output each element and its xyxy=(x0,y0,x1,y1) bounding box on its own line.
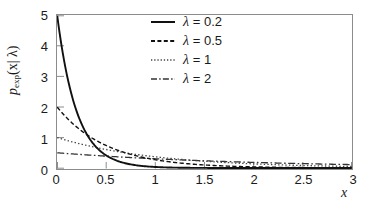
legend-label-lambda-0-5: λ = 0.5 xyxy=(183,33,222,49)
legend-label-lambda-0-2: λ = 0.2 xyxy=(183,14,222,30)
legend-label-lambda-1: λ = 1 xyxy=(183,52,211,68)
y-axis-label-base: p xyxy=(5,88,20,95)
x-tick-label-3: 3 xyxy=(333,172,369,187)
x-tick-label-0-5: 0.5 xyxy=(86,172,126,187)
y-axis-label-container: pexp(x| λ) xyxy=(0,0,26,175)
y-axis-label-argument: (x| λ) xyxy=(5,46,20,75)
x-axis-label: x xyxy=(341,185,347,201)
y-axis-label: pexp(x| λ) xyxy=(5,15,22,125)
y-tick-label-4: 4 xyxy=(26,39,48,54)
legend-value-2: = 1 xyxy=(193,52,211,67)
legend-swatch-dotted-icon xyxy=(150,54,176,66)
x-tick-label-0: 0 xyxy=(36,172,76,187)
y-tick-label-5: 5 xyxy=(26,8,48,23)
lambda-symbol-0: λ xyxy=(183,14,189,29)
legend-item-lambda-2: λ = 2 xyxy=(150,69,275,88)
exponential-pdf-chart: pexp(x| λ) 0 1 2 3 4 5 0 0.5 1 1.5 2 2.5… xyxy=(0,0,369,204)
y-tick-label-3: 3 xyxy=(26,70,48,85)
legend-item-lambda-0-2: λ = 0.2 xyxy=(150,12,275,31)
y-tick-label-2: 2 xyxy=(26,101,48,116)
legend-swatch-dashed-icon xyxy=(150,35,176,47)
legend-swatch-dashdot-icon xyxy=(150,73,176,85)
legend-value-3: = 2 xyxy=(193,71,211,86)
legend-swatch-solid-icon xyxy=(150,16,176,28)
lambda-symbol-3: λ xyxy=(183,71,189,86)
x-tick-label-2: 2 xyxy=(234,172,274,187)
x-tick-label-2-5: 2.5 xyxy=(284,172,324,187)
legend-item-lambda-0-5: λ = 0.5 xyxy=(150,31,275,50)
lambda-symbol-2: λ xyxy=(183,52,189,67)
series-line-lambda-0-5 xyxy=(57,107,352,168)
y-tick-label-1: 1 xyxy=(26,132,48,147)
legend: λ = 0.2 λ = 0.5 λ = 1 λ = 2 xyxy=(150,12,275,88)
lambda-symbol-1: λ xyxy=(183,33,189,48)
legend-label-lambda-2: λ = 2 xyxy=(183,71,211,87)
legend-value-0: = 0.2 xyxy=(193,14,222,29)
legend-value-1: = 0.5 xyxy=(193,33,222,48)
legend-item-lambda-1: λ = 1 xyxy=(150,50,275,69)
x-tick-label-1: 1 xyxy=(135,172,175,187)
x-tick-label-1-5: 1.5 xyxy=(185,172,225,187)
y-axis-label-subscript: exp xyxy=(11,75,21,88)
